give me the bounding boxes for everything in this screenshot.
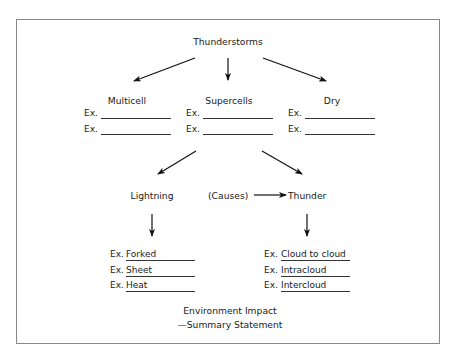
ex-label: Ex. [110,250,124,259]
ex-label: Ex. [264,250,278,259]
thunder-example-intracloud[interactable]: Intracloud [281,266,350,277]
multicell-example-2-blank[interactable] [101,124,171,135]
thunder-example-intercloud[interactable]: Intercloud [281,281,350,292]
ex-label: Ex. [84,125,98,134]
lightning-example-heat[interactable]: Heat [126,281,195,292]
type-multicell: Multicell [108,96,146,105]
supercells-example-2-blank[interactable] [203,124,273,135]
ex-label: Ex. [264,281,278,290]
arrow-to-lightning [158,151,196,174]
summary-line-1: Environment Impact [183,306,276,315]
summary-line-2: —Summary Statement [178,320,283,329]
ex-label: Ex. [110,266,124,275]
ex-label: Ex. [264,266,278,275]
type-supercells: Supercells [205,96,252,105]
ex-label: Ex. [288,125,302,134]
arrow-to-multicell [134,58,195,81]
dry-example-2-blank[interactable] [305,124,375,135]
thunder-label: Thunder [288,191,326,200]
arrow-to-thunder [262,151,302,174]
lightning-example-forked[interactable]: Forked [126,250,195,261]
ex-label: Ex. [84,109,98,118]
dry-example-1-blank[interactable] [305,108,375,119]
causes-label: (Causes) [208,191,248,200]
ex-label: Ex. [110,281,124,290]
ex-label: Ex. [288,109,302,118]
multicell-example-1-blank[interactable] [101,108,171,119]
lightning-label: Lightning [131,191,174,200]
diagram-title: Thunderstorms [193,37,263,46]
supercells-example-1-blank[interactable] [203,108,273,119]
lightning-example-sheet[interactable]: Sheet [126,266,195,277]
thunder-example-cloud-to-cloud[interactable]: Cloud to cloud [281,250,350,261]
type-dry: Dry [324,96,340,105]
ex-label: Ex. [186,109,200,118]
arrow-to-dry [263,58,326,81]
ex-label: Ex. [186,125,200,134]
